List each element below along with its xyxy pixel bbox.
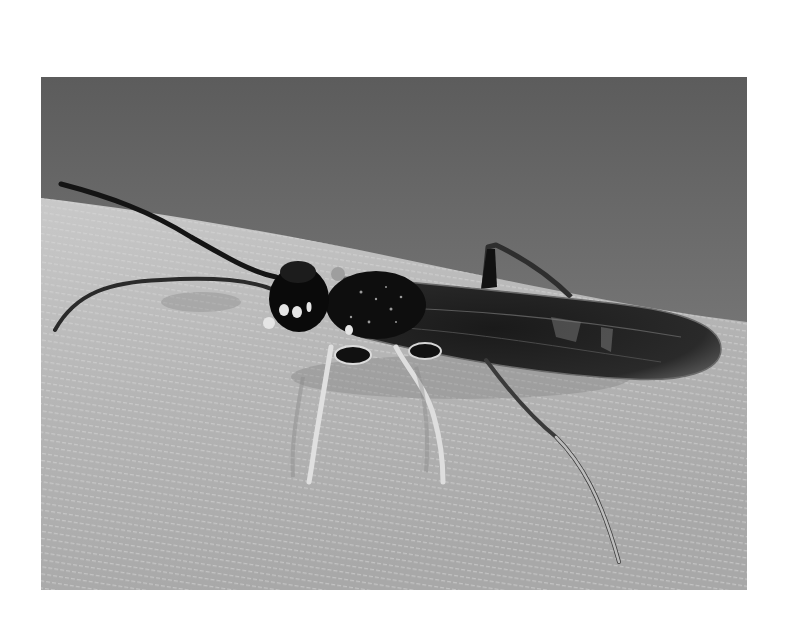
antenna-shadow bbox=[161, 292, 241, 312]
pale-spot bbox=[331, 267, 345, 281]
thorax bbox=[326, 271, 426, 339]
head-top bbox=[280, 261, 316, 283]
photo-canvas bbox=[41, 77, 747, 590]
middle-coxa bbox=[409, 343, 441, 359]
front-coxa bbox=[335, 346, 371, 364]
photograph: Grayscale photograph of a dark parasitoi… bbox=[41, 77, 747, 590]
